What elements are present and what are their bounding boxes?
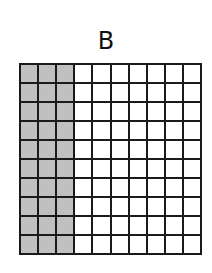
grid-cell — [184, 198, 200, 215]
grid-cell — [112, 65, 128, 82]
grid-cell — [148, 179, 164, 196]
shaded-cell — [57, 198, 73, 215]
grid-cell — [130, 65, 146, 82]
shaded-cell — [21, 160, 37, 177]
grid-cell — [184, 122, 200, 139]
grid-cell — [148, 84, 164, 101]
grid-cell — [130, 103, 146, 120]
shaded-cell — [57, 217, 73, 234]
grid-cell — [75, 160, 91, 177]
shaded-cell — [57, 84, 73, 101]
shaded-cell — [39, 217, 55, 234]
grid-cell — [184, 217, 200, 234]
grid-cell — [93, 198, 109, 215]
grid-cell — [93, 160, 109, 177]
shaded-cell — [39, 103, 55, 120]
grid-cell — [184, 160, 200, 177]
grid-cell — [130, 236, 146, 253]
grid-cell — [166, 103, 182, 120]
grid-cell — [93, 103, 109, 120]
grid-cell — [75, 179, 91, 196]
grid-cell — [112, 141, 128, 158]
grid-cell — [75, 141, 91, 158]
grid-cell — [93, 84, 109, 101]
grid-cell — [184, 84, 200, 101]
grid-cell — [75, 198, 91, 215]
grid-cell — [148, 217, 164, 234]
shaded-cell — [21, 122, 37, 139]
shaded-cell — [39, 236, 55, 253]
shaded-cell — [21, 198, 37, 215]
grid-cell — [184, 103, 200, 120]
grid-cell — [148, 160, 164, 177]
grid-cell — [148, 122, 164, 139]
shaded-cell — [21, 236, 37, 253]
shaded-cell — [39, 198, 55, 215]
shaded-cell — [39, 160, 55, 177]
grid-cell — [166, 160, 182, 177]
shaded-cell — [21, 217, 37, 234]
grid-cell — [130, 122, 146, 139]
grid-cell — [166, 84, 182, 101]
grid-cell — [148, 198, 164, 215]
grid-cell — [184, 65, 200, 82]
shaded-cell — [57, 236, 73, 253]
shaded-cell — [39, 84, 55, 101]
shaded-cell — [57, 122, 73, 139]
grid-cell — [112, 84, 128, 101]
shaded-cell — [57, 179, 73, 196]
shaded-cell — [39, 122, 55, 139]
grid-cell — [112, 179, 128, 196]
grid-cell — [112, 122, 128, 139]
grid-cell — [112, 236, 128, 253]
shaded-cell — [39, 179, 55, 196]
grid-cell — [93, 217, 109, 234]
shaded-cell — [57, 141, 73, 158]
grid-cell — [166, 141, 182, 158]
grid-cell — [93, 236, 109, 253]
grid-cell — [130, 217, 146, 234]
grid-cell — [166, 236, 182, 253]
grid-cell — [130, 179, 146, 196]
grid-cell — [75, 65, 91, 82]
shaded-cell — [21, 84, 37, 101]
grid-cell — [130, 141, 146, 158]
grid-cell — [93, 122, 109, 139]
grid-cell — [75, 217, 91, 234]
shaded-cell — [21, 141, 37, 158]
shaded-cell — [39, 141, 55, 158]
grid-cell — [75, 236, 91, 253]
diagram-label: B — [0, 28, 212, 54]
grid-cell — [184, 236, 200, 253]
grid-cell — [166, 198, 182, 215]
grid-cell — [148, 236, 164, 253]
grid-cell — [112, 198, 128, 215]
grid-cell — [75, 84, 91, 101]
grid-cell — [148, 103, 164, 120]
grid-cell — [184, 179, 200, 196]
hundred-grid — [19, 63, 202, 255]
grid-cell — [75, 103, 91, 120]
shaded-cell — [21, 179, 37, 196]
shaded-cell — [57, 65, 73, 82]
grid-cell — [112, 160, 128, 177]
grid-cell — [166, 179, 182, 196]
grid-cell — [112, 217, 128, 234]
shaded-cell — [39, 65, 55, 82]
shaded-cell — [57, 103, 73, 120]
grid-cell — [93, 179, 109, 196]
grid-cell — [75, 122, 91, 139]
grid-cell — [93, 141, 109, 158]
grid-cell — [184, 141, 200, 158]
grid-cell — [166, 217, 182, 234]
grid-cell — [148, 141, 164, 158]
grid-cell — [166, 122, 182, 139]
grid-cell — [130, 160, 146, 177]
grid-cell — [166, 65, 182, 82]
grid-cell — [93, 65, 109, 82]
grid-cell — [112, 103, 128, 120]
grid-cell — [148, 65, 164, 82]
grid-cell — [130, 84, 146, 101]
shaded-cell — [57, 160, 73, 177]
shaded-cell — [21, 103, 37, 120]
